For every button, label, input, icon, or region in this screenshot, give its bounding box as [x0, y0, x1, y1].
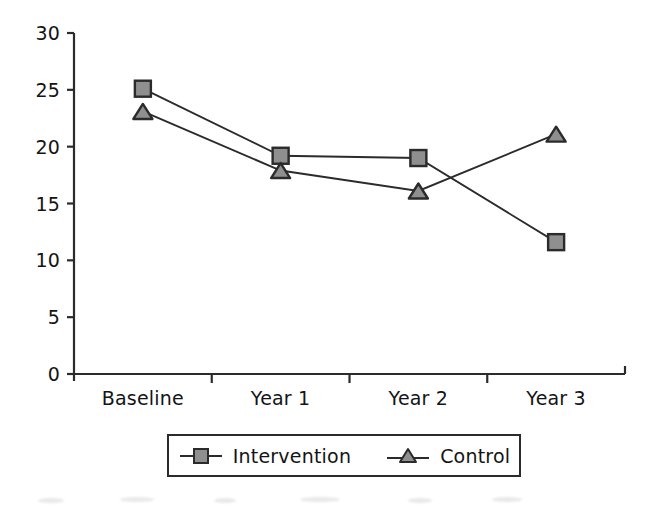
x-tick-label: Year 3	[526, 387, 586, 409]
y-tick-label: 10	[14, 249, 60, 271]
scan-artifact	[38, 498, 64, 503]
x-tick-label: Baseline	[102, 387, 184, 409]
legend-label-control: Control	[440, 445, 510, 467]
scan-artifact	[492, 497, 522, 502]
y-tick-label: 30	[14, 22, 60, 44]
y-tick-label: 20	[14, 136, 60, 158]
chart-legend: Intervention Control	[167, 434, 521, 477]
scan-artifact	[214, 498, 236, 503]
scan-artifact	[408, 498, 432, 503]
y-tick-label: 25	[14, 79, 60, 101]
legend-label-intervention: Intervention	[233, 445, 351, 467]
scan-artifact	[120, 497, 154, 502]
y-tick-label: 5	[14, 306, 60, 328]
y-tick-label: 0	[14, 363, 60, 385]
plot-area	[0, 0, 655, 506]
x-tick-label: Year 1	[251, 387, 311, 409]
scan-artifact	[300, 497, 340, 502]
legend-entry-control: Control	[385, 445, 510, 467]
y-tick-label: 15	[14, 193, 60, 215]
square-marker-icon	[178, 446, 224, 466]
line-chart-figure: 051015202530 BaselineYear 1Year 2Year 3 …	[0, 0, 655, 506]
x-tick-label: Year 2	[389, 387, 449, 409]
triangle-marker-icon	[385, 446, 431, 466]
legend-entry-intervention: Intervention	[178, 445, 351, 467]
